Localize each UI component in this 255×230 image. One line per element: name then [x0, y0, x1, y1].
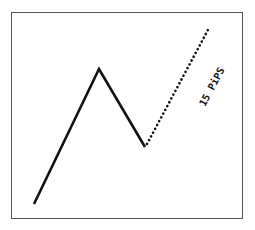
- price-pattern-diagram: 15 PiPS: [0, 0, 255, 230]
- pips-label: 15 PiPS: [197, 66, 227, 108]
- solid-zigzag-line: [34, 69, 145, 204]
- dotted-projection-line: [147, 28, 209, 144]
